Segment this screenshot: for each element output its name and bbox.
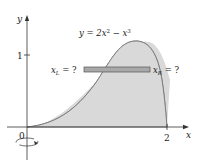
x-axis-arrow [183,125,189,129]
y-tick-label: 1 [17,51,23,61]
right-endpoint-label: xR = ? [153,65,179,76]
y-axis-arrow [25,15,29,21]
y-axis-label: y [16,14,23,24]
region-fill [27,41,167,127]
left-endpoint-label: xL = ? [51,65,77,76]
horizontal-strip [84,67,150,72]
origin-label: 0 [19,131,25,141]
x-tick-label: 2 [164,133,170,143]
x-axis-label: x [186,130,191,140]
solid-of-revolution-diagram: y x 1 2 0 y = 2x2 − x3 xL = ? xR = ? [0,0,200,161]
equation-label: y = 2x2 − x3 [78,28,131,38]
